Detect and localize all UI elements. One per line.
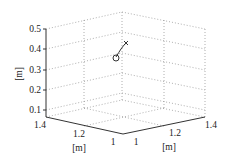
trajectory-series [113, 41, 128, 61]
start-circle-marker [113, 55, 119, 61]
y-tick-1.2: 1.2 [73, 129, 85, 139]
z-tick-0.4: 0.4 [29, 44, 41, 54]
x-tick-1: 1 [134, 137, 139, 147]
z-tick-0.5: 0.5 [29, 24, 41, 34]
y-axis-label: [m] [72, 143, 86, 153]
z-tick-0.2: 0.2 [29, 85, 41, 95]
x-tick-1.2: 1.2 [169, 128, 181, 138]
z-tick-0.1: 0.1 [29, 105, 41, 115]
z-axis-label: [m] [14, 67, 24, 81]
x-axis-line [123, 117, 205, 134]
plot-3d: 0.5 0.4 0.3 0.2 0.1 [m] 1.4 1.2 1 [m] 1 … [0, 0, 231, 165]
z-tick-0.3: 0.3 [29, 65, 41, 75]
y-tick-1: 1 [111, 137, 116, 147]
grid-lines [46, 12, 205, 126]
z-tick-labels: 0.5 0.4 0.3 0.2 0.1 [29, 24, 41, 115]
x-tick-1.4: 1.4 [205, 120, 217, 130]
x-axis-label: [m] [162, 142, 176, 152]
y-tick-1.4: 1.4 [34, 120, 46, 130]
